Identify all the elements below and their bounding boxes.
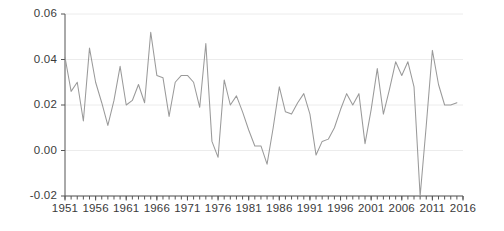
x-minor-tick-marks bbox=[65, 196, 463, 200]
y-tick-label: 0.02 bbox=[13, 99, 57, 110]
data-line-series-1 bbox=[65, 32, 457, 196]
x-tick-label: 2016 bbox=[443, 203, 483, 214]
gridlines bbox=[65, 14, 463, 196]
y-tick-label: 0.06 bbox=[13, 8, 57, 19]
y-tick-label: 0.00 bbox=[13, 145, 57, 156]
y-tick-label: -0.02 bbox=[13, 190, 57, 201]
chart-canvas bbox=[0, 0, 504, 231]
line-chart: -0.020.000.020.040.06 195119561961196619… bbox=[0, 0, 504, 231]
y-tick-label: 0.04 bbox=[13, 54, 57, 65]
x-major-tick-marks bbox=[65, 196, 463, 201]
y-tick-marks bbox=[61, 14, 65, 196]
